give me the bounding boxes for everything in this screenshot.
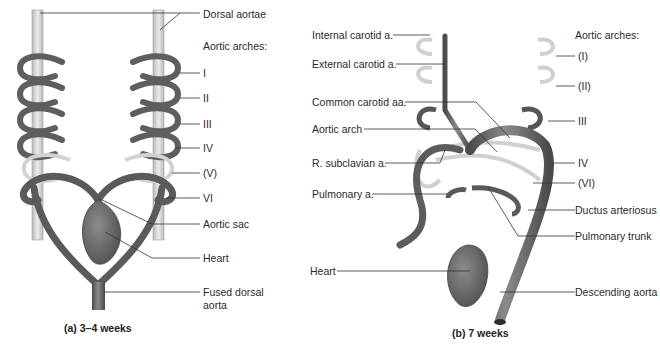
label-common-carotid: Common carotid aa. [312, 96, 407, 108]
label-arch-5-a: (V) [203, 167, 217, 179]
panel-a-vessels [20, 10, 178, 310]
label-arch-1-a: I [203, 67, 206, 79]
label-external-carotid: External carotid a. [312, 58, 397, 70]
label-dorsal-aortae: Dorsal aortae [203, 8, 266, 20]
caption-panel-b: (b) 7 weeks [452, 327, 509, 339]
label-pulmonary-a: Pulmonary a. [312, 188, 374, 200]
label-ductus-arteriosus: Ductus arteriosus [575, 204, 657, 216]
label-pulmonary-trunk: Pulmonary trunk [575, 230, 651, 242]
label-aortic-arches-heading-a: Aortic arches: [203, 40, 267, 52]
label-heart-a: Heart [203, 252, 229, 264]
caption-panel-a: (a) 3–4 weeks [64, 322, 132, 334]
label-fused-dorsal-aorta-2: aorta [203, 299, 227, 311]
label-fused-dorsal-aorta-1: Fused dorsal [203, 286, 264, 298]
label-arch-2-b: (II) [578, 80, 591, 92]
aortic-arch-illustration [0, 0, 660, 345]
label-aortic-arch: Aortic arch [312, 123, 362, 135]
label-arch-6-b: (VI) [578, 177, 595, 189]
label-internal-carotid: Internal carotid a. [312, 29, 393, 41]
label-arch-1-b: (I) [578, 50, 588, 62]
label-heart-b: Heart [310, 265, 336, 277]
label-arch-4-b: IV [578, 157, 588, 169]
label-aortic-arches-heading-b: Aortic arches: [575, 29, 639, 41]
label-descending-aorta: Descending aorta [575, 286, 657, 298]
label-arch-3-b: III [578, 115, 587, 127]
label-arch-3-a: III [203, 118, 212, 130]
label-arch-6-a: VI [203, 192, 213, 204]
label-r-subclavian: R. subclavian a. [312, 157, 387, 169]
label-arch-4-a: IV [203, 142, 213, 154]
panel-b-vessels [400, 36, 553, 325]
label-aortic-sac: Aortic sac [203, 218, 249, 230]
label-arch-2-a: II [203, 92, 209, 104]
